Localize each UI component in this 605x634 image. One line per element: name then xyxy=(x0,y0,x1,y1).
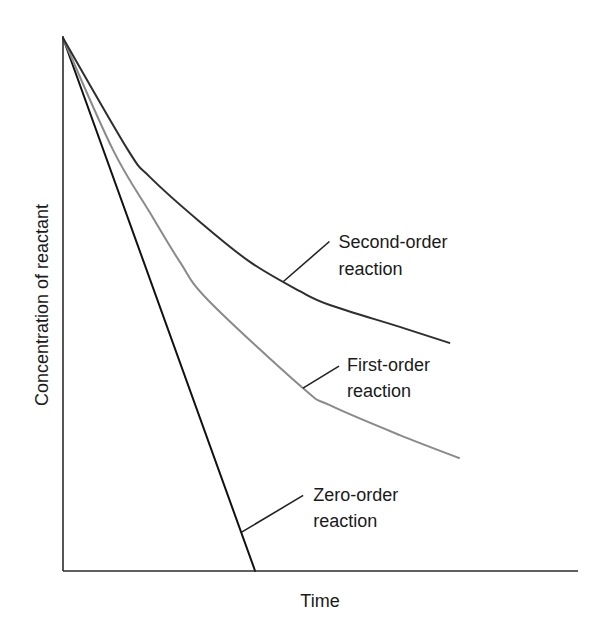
second-order-reaction-leader-line xyxy=(283,242,329,282)
zero-order-reaction-label-line-2: reaction xyxy=(313,511,377,531)
zero-order-reaction-label-line-1: Zero-order xyxy=(313,485,398,505)
x-axis-label: Time xyxy=(300,591,339,611)
zero-order-reaction-curve xyxy=(63,38,255,571)
zero-order-reaction-leader-line xyxy=(241,495,303,532)
curves-layer xyxy=(63,38,459,571)
second-order-reaction-label-line-2: reaction xyxy=(338,259,402,279)
first-order-reaction-label-line-1: First-order xyxy=(347,355,430,375)
y-axis-label: Concentration of reactant xyxy=(32,204,52,406)
first-order-reaction-leader-line xyxy=(303,366,339,388)
second-order-reaction-label-line-1: Second-order xyxy=(338,232,447,252)
second-order-reaction-curve xyxy=(63,38,449,343)
reaction-order-chart: Second-orderreactionFirst-orderreactionZ… xyxy=(0,0,605,634)
first-order-reaction-label-line-2: reaction xyxy=(347,381,411,401)
